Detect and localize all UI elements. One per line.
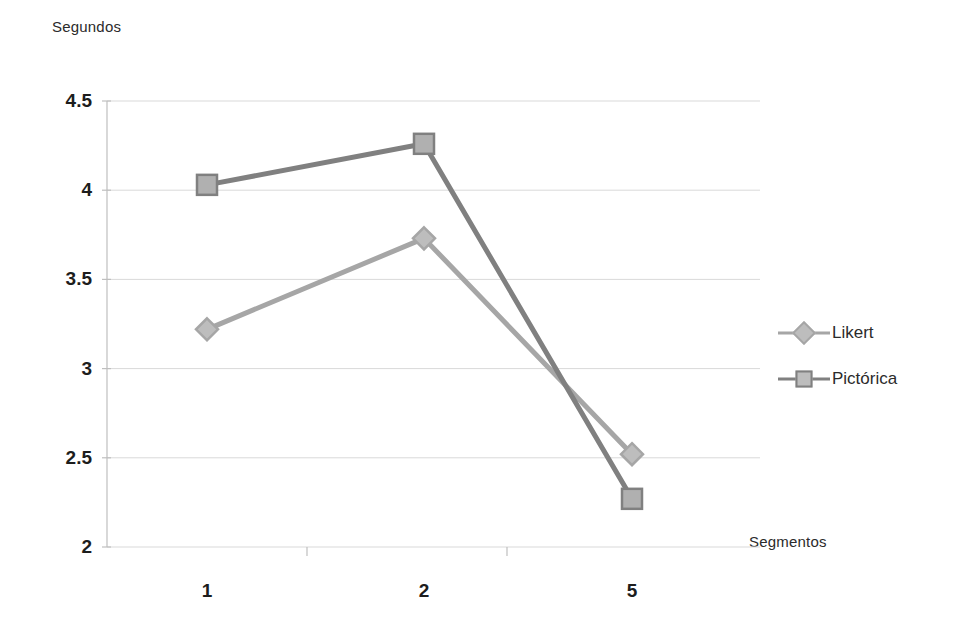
series-lines	[207, 144, 632, 499]
square-icon	[796, 371, 813, 388]
series-line-pictórica	[207, 144, 632, 499]
legend-key	[778, 367, 830, 391]
axis-lines	[102, 101, 111, 547]
legend-label: Likert	[830, 323, 874, 343]
chart-legend: LikertPictórica	[778, 310, 963, 402]
x-tick-marks	[307, 547, 507, 556]
data-point-marker	[622, 489, 642, 509]
y-tick-label: 4.5	[20, 90, 92, 112]
data-point-marker	[197, 175, 217, 195]
data-point-marker	[196, 318, 218, 340]
y-tick-label: 3.5	[20, 268, 92, 290]
x-tick-label: 2	[419, 580, 430, 602]
data-point-marker	[414, 134, 434, 154]
series-line-likert	[207, 238, 632, 454]
legend-key	[778, 321, 830, 345]
y-tick-label: 2	[20, 536, 92, 558]
y-tick-label: 4	[20, 179, 92, 201]
x-tick-label: 1	[202, 580, 213, 602]
y-tick-label: 3	[20, 358, 92, 380]
x-tick-label: 5	[627, 580, 638, 602]
legend-item-pictórica[interactable]: Pictórica	[778, 356, 963, 402]
legend-item-likert[interactable]: Likert	[778, 310, 963, 356]
legend-label: Pictórica	[830, 369, 897, 389]
line-chart: Segundos Segmentos 4.543.532.52 125 Like…	[0, 0, 973, 642]
y-tick-label: 2.5	[20, 447, 92, 469]
diamond-icon	[792, 321, 816, 345]
